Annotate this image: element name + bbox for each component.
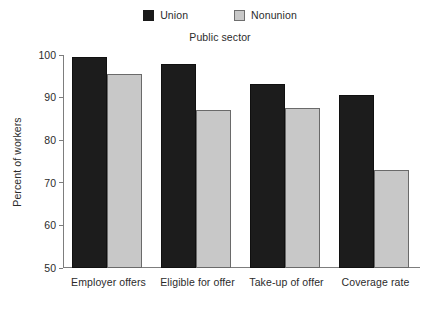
bar-nonunion [285,108,320,268]
legend-label-nonunion: Nonunion [251,9,297,21]
y-axis-tick-mark [59,140,63,141]
legend-item-union: Union [143,9,188,21]
bar-union [72,57,107,268]
x-axis-label: Employer offers [71,276,146,288]
legend-swatch-union-icon [143,10,154,21]
x-axis-label: Take-up of offer [249,276,323,288]
x-axis-label: Coverage rate [342,276,410,288]
x-axis-labels: Employer offersEligible for offerTake-up… [63,276,420,292]
plot-area: 5060708090100 [63,55,420,268]
bar-nonunion [374,170,409,268]
bar-union [339,95,374,268]
bar-chart: Union Nonunion Public sector Percent of … [0,0,440,313]
y-axis-tick-label: 70 [44,177,56,188]
bar-union [161,64,196,268]
legend-swatch-nonunion-icon [234,10,245,21]
bars-layer [64,55,420,268]
y-axis-tick-mark [59,55,63,56]
y-axis-title: Percent of workers [10,55,24,268]
y-axis-tick-mark [59,268,63,269]
legend-label-union: Union [160,9,188,21]
x-axis-label: Eligible for offer [160,276,235,288]
y-axis-tick-mark [59,182,63,183]
y-axis-tick-label: 100 [38,49,56,60]
chart-title: Public sector [0,31,440,43]
y-axis-tick-label: 80 [44,134,56,145]
y-axis-tick-label: 60 [44,220,56,231]
y-axis-tick-label: 50 [44,262,56,273]
y-axis-tick-mark [59,97,63,98]
y-axis-title-text: Percent of workers [11,117,23,206]
y-axis-tick-label: 90 [44,92,56,103]
y-axis-tick-mark [59,225,63,226]
bar-union [250,84,285,268]
bar-nonunion [196,110,231,268]
legend-item-nonunion: Nonunion [234,9,297,21]
bar-nonunion [107,74,142,268]
chart-legend: Union Nonunion [0,9,440,21]
